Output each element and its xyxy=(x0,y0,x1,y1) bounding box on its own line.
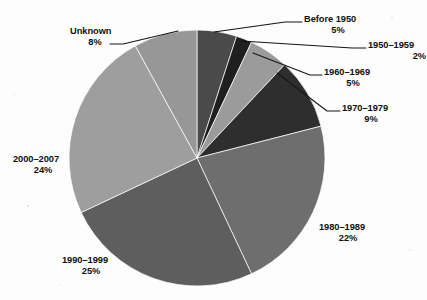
slice-label-1970-1979-pct: 9% xyxy=(342,114,400,125)
slice-label-before-1950-name: Before 1950 xyxy=(304,14,372,25)
slice-label-unknown: Unknown 8% xyxy=(70,26,120,49)
slice-label-1990-1999-name: 1990–1999 xyxy=(62,255,120,266)
slice-label-unknown-name: Unknown xyxy=(70,26,120,37)
slice-label-1980-1989-pct: 22% xyxy=(319,233,377,244)
slice-label-1950-1959: 1950–1959 2% xyxy=(368,40,426,63)
leader-line-before-1950 xyxy=(214,22,302,32)
slice-label-before-1950-pct: 5% xyxy=(304,25,372,36)
slice-label-1950-1959-pct: 2% xyxy=(368,51,426,62)
slice-label-1950-1959-name: 1950–1959 xyxy=(368,40,426,51)
slice-label-1990-1999: 1990–1999 25% xyxy=(62,255,120,278)
slice-label-2000-2007: 2000–2007 24% xyxy=(13,154,73,177)
slice-label-unknown-pct: 8% xyxy=(70,37,120,48)
slice-label-1990-1999-pct: 25% xyxy=(62,266,120,277)
slice-label-1960-1969-name: 1960–1969 xyxy=(324,67,382,78)
slice-label-before-1950: Before 1950 5% xyxy=(304,14,372,37)
slice-label-1970-1979: 1970–1979 9% xyxy=(342,103,400,126)
slice-label-2000-2007-pct: 24% xyxy=(13,165,73,176)
pie-slices-group xyxy=(69,30,325,286)
slice-label-1960-1969-pct: 5% xyxy=(324,78,382,89)
slice-label-1970-1979-name: 1970–1979 xyxy=(342,103,400,114)
slice-label-1960-1969: 1960–1969 5% xyxy=(324,67,382,90)
pie-chart-figure: Before 1950 5% 1950–1959 2% 1960–1969 5%… xyxy=(0,0,427,300)
slice-label-1980-1989: 1980–1989 22% xyxy=(319,222,377,245)
slice-label-2000-2007-name: 2000–2007 xyxy=(13,154,73,165)
slice-label-1980-1989-name: 1980–1989 xyxy=(319,222,377,233)
